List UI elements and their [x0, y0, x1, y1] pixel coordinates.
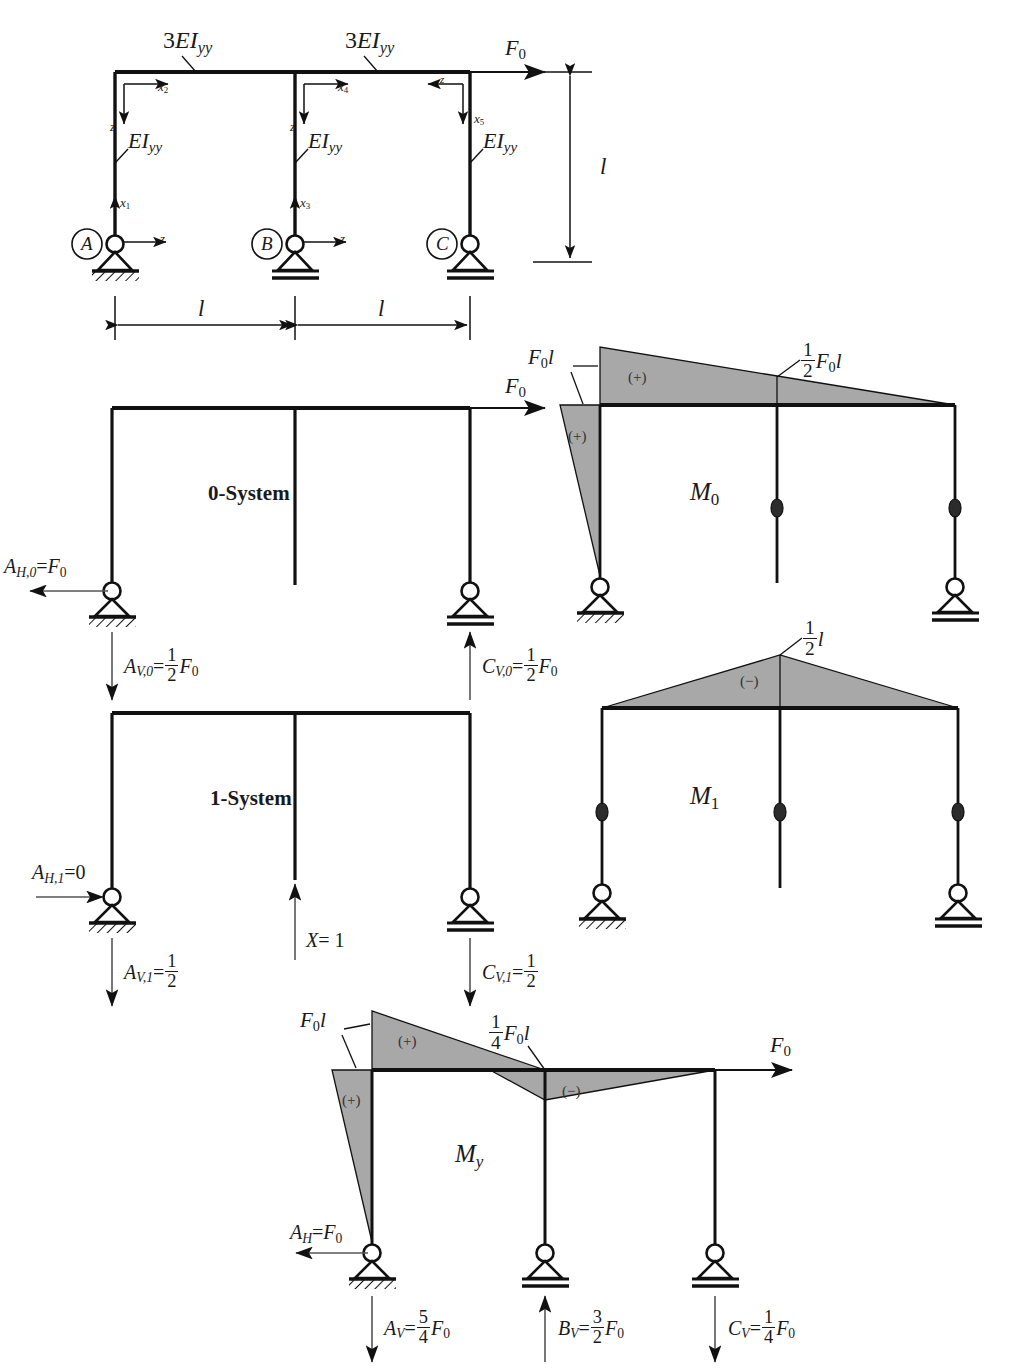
panel-zero-system [30, 408, 545, 700]
my-negative-area [490, 1070, 715, 1100]
my-sign-mid: (−) [562, 1083, 580, 1100]
axis-x1-label: x1 [120, 196, 130, 211]
m1-support-c [935, 885, 982, 927]
panel-m1 [579, 638, 982, 929]
axis-x4-label: x4 [338, 80, 348, 95]
beam-stiffness-left-label: 3EIyy [163, 28, 212, 56]
m0-support-c [932, 579, 979, 621]
dimension-height [533, 72, 592, 262]
diagram-svg [0, 0, 1010, 1370]
m0-support-a [577, 579, 624, 624]
my-support-c [692, 1245, 739, 1287]
m1-leader-line [780, 638, 802, 655]
m1-title: M1 [690, 782, 719, 814]
my-support-b [522, 1245, 569, 1287]
m1-hinge-a-icon [596, 803, 608, 821]
figure-canvas: 3EIyy 3EIyy EIyy EIyy EIyy F0 x2 x4 x5 z… [0, 0, 1010, 1370]
m0-hinge-c-icon [949, 499, 961, 517]
my-load-f0-label: F0 [770, 1034, 791, 1059]
support-c [447, 236, 494, 279]
structure-load-f0-label: F0 [505, 37, 526, 62]
m0-title: M0 [690, 478, 719, 510]
axis-z-a2-label: z [160, 232, 165, 245]
dim-span-left-label: l [198, 297, 204, 320]
dimension-spans [115, 296, 470, 340]
beam-stiffness-right-label: 3EIyy [345, 28, 394, 56]
axis-x5-label: x5 [474, 112, 484, 127]
zero-system-title: 0-System [208, 481, 290, 506]
column-a-stiffness-label: EIyy [128, 130, 162, 155]
m0-value-mid-label: 12F0l [800, 340, 841, 380]
my-reaction-ah-label: AH=F0 [290, 1222, 342, 1245]
axis-x2-label: x2 [158, 80, 168, 95]
panel-my [296, 1011, 792, 1362]
one-system-title: 1-System [210, 786, 292, 811]
one-unit-force-label: X= 1 [306, 930, 345, 950]
m1-hinge-c-icon [952, 803, 964, 821]
axis-z-c-label: z [440, 74, 444, 85]
node-a-label: A [81, 233, 93, 255]
my-reaction-av-label: AV=54F0 [384, 1308, 450, 1347]
column-c-stiffness-label: EIyy [483, 130, 517, 155]
one-reaction-ah-label: AH,1=0 [32, 862, 86, 885]
column-b-stiffness-label: EIyy [308, 130, 342, 155]
axis-z-b-label: z [290, 120, 295, 133]
node-c-label: C [436, 233, 449, 255]
axis-x3-label: x3 [300, 196, 310, 211]
one-support-a [89, 889, 136, 934]
my-reaction-bv-label: BV=32F0 [558, 1308, 624, 1347]
m0-sign-beam: (+) [628, 369, 646, 386]
my-value-corner-label: F0l [300, 1010, 326, 1033]
m1-value-peak-label: 12l [802, 618, 824, 658]
m1-sign-beam: (−) [740, 673, 758, 690]
my-reaction-cv-label: CV=14F0 [728, 1308, 795, 1347]
my-sign-left-beam: (+) [398, 1033, 416, 1050]
m0-value-corner-label: F0l [528, 347, 554, 370]
dim-height-label: l [600, 155, 606, 178]
axis-z-a-label: z [110, 120, 115, 133]
zero-load-f0-label: F0 [505, 375, 526, 400]
my-support-a [349, 1245, 396, 1290]
node-b-label: B [261, 233, 273, 255]
dim-span-right-label: l [378, 297, 384, 320]
panel-structure [72, 56, 592, 340]
zero-support-c [447, 583, 494, 625]
zero-reaction-cv-label: CV,0=12F0 [482, 646, 558, 685]
my-value-mid-label: 14F0l [488, 1012, 529, 1052]
m1-support-a [579, 885, 626, 930]
one-reaction-cv-label: CV,1=12 [482, 952, 539, 991]
panel-m0 [560, 347, 979, 623]
panel-one-system [36, 713, 494, 1006]
one-support-c [447, 889, 494, 931]
axis-z-b2-label: z [340, 232, 345, 245]
m0-hinge-b-icon [771, 499, 783, 517]
m1-hinge-b-icon [774, 803, 786, 821]
zero-support-a [89, 583, 136, 628]
zero-reaction-av-label: AV,0=12F0 [124, 646, 198, 685]
one-reaction-av-label: AV,1=12 [124, 952, 179, 991]
local-axes-group [115, 84, 463, 242]
my-sign-left-column: (+) [342, 1092, 360, 1109]
m0-sign-column: (+) [568, 428, 586, 445]
zero-reaction-ah-label: AH,0=F0 [4, 556, 67, 579]
my-title: My [455, 1140, 483, 1172]
